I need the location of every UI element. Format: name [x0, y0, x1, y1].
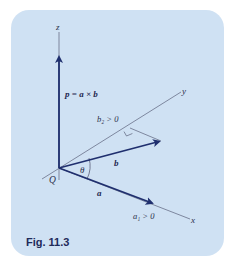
right-angle-marker — [124, 132, 132, 136]
b2-annotation: b₂ > 0 — [97, 114, 119, 124]
figure-caption: Fig. 11.3 — [26, 236, 69, 248]
vector-a-label: a — [97, 188, 102, 198]
z-axis-label: z — [55, 22, 60, 32]
vector-b-arrow — [59, 142, 159, 169]
projection-line — [130, 128, 161, 141]
y-axis — [42, 92, 181, 179]
vector-diagram: z y x p = a × b b₂ > 0 b θ Q a a₁ > 0 — [0, 0, 236, 267]
axes — [42, 32, 190, 219]
theta-label: θ — [80, 165, 85, 175]
vector-p-label: p = a × b — [64, 89, 98, 99]
x-axis-label: x — [190, 215, 195, 225]
origin-label: Q — [49, 175, 56, 185]
vector-a-arrow — [59, 168, 152, 203]
vectors — [59, 57, 159, 203]
y-axis-label: y — [181, 86, 186, 96]
a1-annotation: a₁ > 0 — [133, 211, 155, 221]
vector-b-label: b — [114, 158, 119, 168]
